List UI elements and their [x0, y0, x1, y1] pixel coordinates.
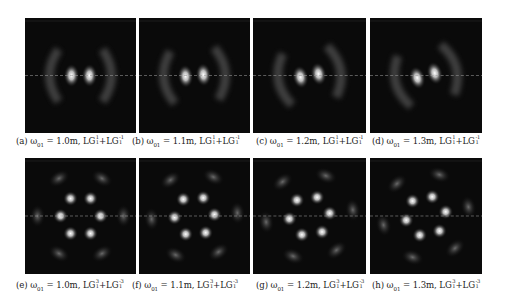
plus-sign: + — [455, 136, 462, 146]
lg-mode-1: LG11 — [83, 136, 99, 146]
lg-mode-2: LG-31 — [463, 280, 481, 290]
intensity-plot — [370, 18, 482, 133]
intensity-plot — [253, 18, 366, 133]
lg-mode-1: LG31 — [197, 280, 213, 290]
omega-value: = 1.0m, — [44, 280, 83, 290]
omega-value: = 1.2m, — [284, 280, 323, 290]
caption-f: (f) ω01 = 1.1m, LG31+LG-31 — [132, 280, 238, 290]
caption-label: (c) — [256, 136, 270, 146]
omega-symbol: ω — [387, 280, 394, 290]
caption-label: (b) — [132, 136, 147, 146]
lg-mode-2: LG-11 — [346, 136, 364, 146]
caption-label: (e) — [16, 280, 30, 290]
caption-label: (f) — [132, 280, 144, 290]
omega-subscript: 01 — [151, 286, 158, 292]
omega-value: = 1.3m, — [400, 136, 439, 146]
panel-h-intensity-image — [370, 158, 482, 274]
lg-mode-1: LG11 — [199, 136, 215, 146]
plus-sign: + — [455, 280, 462, 290]
plus-sign: + — [215, 136, 222, 146]
plus-sign: + — [339, 136, 346, 146]
panel-b-intensity-image — [139, 18, 250, 133]
omega-value: = 1.1m, — [158, 280, 197, 290]
omega-subscript: 01 — [37, 286, 44, 292]
lg-mode-1: LG31 — [83, 280, 99, 290]
caption-e: (e) ω01 = 1.0m, LG31+LG-31 — [16, 280, 124, 290]
lg-mode-2: LG-11 — [223, 136, 241, 146]
intensity-plot — [253, 158, 366, 274]
intensity-plot — [25, 18, 136, 133]
intensity-plot — [139, 18, 250, 133]
omega-value: = 1.1m, — [160, 136, 199, 146]
panel-c-intensity-image — [253, 18, 366, 133]
lg-mode-2: LG-31 — [347, 280, 365, 290]
panel-d-intensity-image — [370, 18, 482, 133]
intensity-plot — [139, 158, 250, 274]
caption-h: (h) ω01 = 1.3m, LG31+LG-31 — [372, 280, 480, 290]
panel-f-intensity-image — [139, 158, 250, 274]
panel-a-intensity-image — [25, 18, 136, 133]
caption-b: (b) ω01 = 1.1m, LG11+LG-11 — [132, 136, 240, 146]
caption-label: (g) — [256, 280, 271, 290]
caption-label: (a) — [16, 136, 30, 146]
caption-a: (a) ω01 = 1.0m, LG11+LG-11 — [16, 136, 124, 146]
caption-d: (d) ω01 = 1.3m, LG11+LG-11 — [372, 136, 480, 146]
caption-c: (c) ω01 = 1.2m, LG11+LG-11 — [256, 136, 364, 146]
caption-label: (d) — [372, 136, 387, 146]
lg-mode-1: LG31 — [439, 280, 455, 290]
omega-subscript: 01 — [277, 142, 284, 148]
omega-symbol: ω — [270, 136, 277, 146]
lg-mode-2: LG-11 — [463, 136, 481, 146]
omega-subscript: 01 — [37, 142, 44, 148]
lg-mode-1: LG11 — [439, 136, 455, 146]
panel-g-intensity-image — [253, 158, 366, 274]
lg-mode-2: LG-31 — [106, 280, 124, 290]
lg-mode-2: LG-31 — [220, 280, 238, 290]
caption-g: (g) ω01 = 1.2m, LG31+LG-31 — [256, 280, 364, 290]
caption-label: (h) — [372, 280, 387, 290]
lg-mode-2: LG-11 — [106, 136, 124, 146]
omega-value: = 1.2m, — [284, 136, 323, 146]
omega-value: = 1.3m, — [400, 280, 439, 290]
lg-mode-1: LG11 — [323, 136, 339, 146]
omega-value: = 1.0m, — [44, 136, 83, 146]
intensity-plot — [370, 158, 482, 274]
panel-e-intensity-image — [25, 158, 136, 274]
plus-sign: + — [339, 280, 346, 290]
omega-symbol: ω — [30, 280, 37, 290]
intensity-plot — [25, 158, 136, 274]
lg-mode-1: LG31 — [323, 280, 339, 290]
